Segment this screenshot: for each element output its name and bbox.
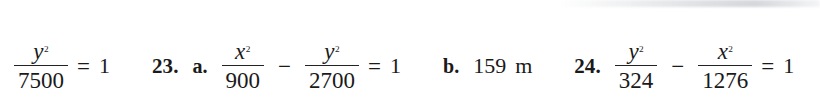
equals-sign: = xyxy=(77,55,90,78)
equals-sign: = xyxy=(761,55,774,78)
answer-24: 24. y2 324 − x2 1276 = 1 xyxy=(574,40,794,93)
exponent-2: 2 xyxy=(44,44,49,54)
answer-23: 23. a. x2 900 − y2 2700 = 1 xyxy=(152,40,401,93)
exponent-2: 2 xyxy=(246,44,251,54)
fraction-numerator: y2 xyxy=(29,40,52,65)
fraction-y2-over-2700: y2 2700 xyxy=(305,40,359,93)
exponent-2: 2 xyxy=(335,44,340,54)
variable-y: y xyxy=(324,39,334,64)
fraction-numerator: x2 xyxy=(231,40,254,65)
measurement-unit-meters: m xyxy=(515,53,532,79)
fraction-y2-over-7500: y2 7500 xyxy=(14,40,68,93)
fraction-y2-over-324: y2 324 xyxy=(615,40,658,93)
value-one: 1 xyxy=(390,53,401,79)
variable-y: y xyxy=(628,39,638,64)
exponent-2: 2 xyxy=(639,44,644,54)
fraction-x2-over-1276: x2 1276 xyxy=(698,40,752,93)
variable-x: x xyxy=(235,39,245,64)
answer-23-part-b: b. 159 m xyxy=(443,53,532,79)
variable-x: x xyxy=(718,39,728,64)
variable-y: y xyxy=(33,39,43,64)
exercise-number-24: 24. xyxy=(574,54,601,79)
equals-sign: = xyxy=(368,55,381,78)
exercise-number-23: 23. xyxy=(152,54,179,79)
fraction-denominator: 324 xyxy=(615,66,658,92)
fraction-denominator: 1276 xyxy=(698,66,752,92)
answer-fragment-tail: y2 7500 = 1 xyxy=(14,40,110,93)
part-label-a: a. xyxy=(193,55,208,78)
part-label-b: b. xyxy=(443,55,459,78)
fraction-x2-over-900: x2 900 xyxy=(222,40,265,93)
fraction-denominator: 2700 xyxy=(305,66,359,92)
value-one: 1 xyxy=(99,53,110,79)
fraction-numerator: y2 xyxy=(320,40,343,65)
exponent-2: 2 xyxy=(728,44,733,54)
fraction-denominator: 900 xyxy=(222,66,265,92)
measurement-value: 159 xyxy=(473,53,506,79)
fraction-numerator: y2 xyxy=(624,40,647,65)
answer-line: y2 7500 = 1 23. a. x2 900 − xyxy=(0,0,820,103)
value-one: 1 xyxy=(783,53,794,79)
answer-key-page: y2 7500 = 1 23. a. x2 900 − xyxy=(0,0,820,103)
fraction-numerator: x2 xyxy=(714,40,737,65)
minus-sign: − xyxy=(278,55,291,78)
fraction-denominator: 7500 xyxy=(14,66,68,92)
minus-sign: − xyxy=(671,55,684,78)
